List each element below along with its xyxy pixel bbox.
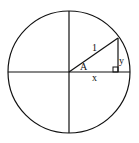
angle-label: A [80,61,88,72]
opposite-label: y [119,55,124,66]
hypotenuse-label: 1 [92,42,97,53]
adjacent-label: x [92,72,97,83]
right-angle-marker [113,67,118,72]
unit-circle-diagram: 1 y A x [0,0,139,143]
